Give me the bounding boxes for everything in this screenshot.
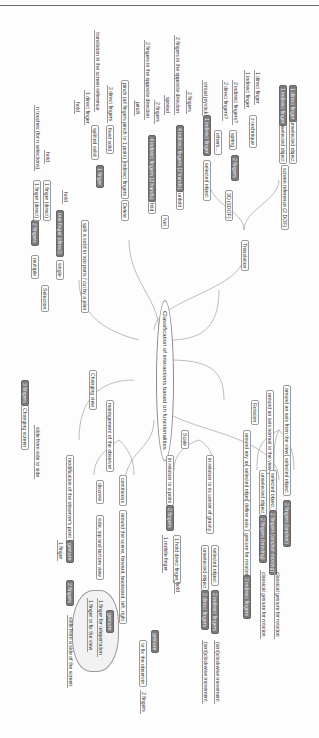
fold-leaf: pinch (134, 100, 141, 116)
pinch-node: pinch (all fingers pinch to 1 point) (121, 80, 129, 162)
changing-screen-node: Changing screen (21, 405, 29, 450)
side-top-bottom-node: side, top and bottom view (96, 515, 104, 580)
one-finger-direct-node: one finger (direct) (56, 210, 64, 257)
management-node: management of the observer (106, 400, 114, 472)
one-finger-direct-node: 1 finger (direct) (33, 180, 41, 221)
spring-leaf: 2 indirect fingers? (232, 80, 239, 125)
spring-leaf: 2 direct fingers? (222, 80, 229, 121)
selected-object-node: selected object (269, 470, 277, 511)
unfold-node: unfold (176, 190, 184, 210)
mindmap-canvas: Classification of interactions based on … (0, 0, 319, 738)
net-node: Net (161, 215, 169, 229)
fixed-leaf: 2 direct fingers (107, 85, 114, 123)
slide-side-leaf: slide from a side of the screen (67, 615, 74, 688)
slide-leaf: slide from side to side (34, 425, 41, 479)
3d-node: 3D (3DOF) (225, 190, 233, 221)
z-leaf: 1 indirect finger (244, 70, 251, 109)
z-technique-node: z-technique (249, 115, 257, 148)
selected-object-node: selected object (203, 160, 211, 201)
define-axis-node: define axis (243, 500, 251, 531)
axis-normal-node: around an axis normal to the view (266, 390, 274, 474)
classical-gesture-leaf: classical gesture for rotation (274, 570, 281, 639)
splitted-leaf: translation in the screen reference (94, 30, 101, 112)
movement-leaf: (anti)clockwise movement (202, 640, 209, 704)
root-node: Classification of interactions based on … (156, 300, 174, 461)
changing-view-node: Changing view (89, 370, 97, 410)
two-fingers-node: 2 fingers (31, 220, 39, 246)
three-fingers-node: 3 fingers (21, 380, 29, 406)
continuous-node: continuous (119, 475, 127, 506)
fold-leaf: 2 fingers in the opposite direction (144, 40, 151, 120)
mobile-finger-leaf: 1 mobile finger (162, 535, 169, 573)
splitted-leaf: 1 direct finger (84, 90, 91, 125)
anchor-fingers-node: 2 fingers (anchor) (283, 500, 291, 547)
others-node: others... (214, 130, 222, 155)
two-fingers-leaf: 2 fingers (140, 690, 147, 714)
unselected-object-node: unselected object (289, 118, 297, 164)
delete-node: Delete (121, 200, 129, 221)
scale-node: Scale (181, 430, 189, 449)
hold-leaf: hold (62, 190, 69, 204)
hold-direct-finger-node: 1 hold direct finger (173, 535, 181, 584)
one-finger-direct-node: 1 finger (direct) (43, 180, 51, 221)
four-fingers-node: 4 indirect fingers (2 hands) (176, 125, 184, 192)
screen-reference-node: screen reference (2 DOF) (281, 165, 289, 230)
point-node: in relation to a point (166, 455, 174, 506)
indirect-fingers-node: 2 indirect fingers (211, 590, 219, 634)
z-leaf: 1 direct finger (254, 70, 261, 105)
unfold-leaf: 2 fingers in the opposite direction (174, 35, 181, 115)
selected-object-node: selected object (211, 545, 219, 586)
n-touches-leaf: n touches (for n selections) (34, 105, 41, 171)
fix-observer-node: to fix the observer (139, 640, 147, 687)
one-finger-node: 1 finger (96, 165, 104, 188)
indirect-finger-node: 1 indirect finger (279, 85, 287, 126)
hold-leaf: hold (174, 580, 181, 594)
unfold-leaf: spread (164, 95, 171, 115)
discrete-node: discrete (96, 480, 104, 504)
classical-gesture-leaf: classical gesture for rotation (260, 570, 267, 639)
gesture-rotation-node: gesture for rotation (243, 530, 251, 580)
split-node: split a solid in two parts / cut by a pl… (81, 220, 89, 313)
indirect-fingers-node: 2 indirect fingers (243, 575, 251, 619)
two-fingers-node: 2 fingers (66, 580, 74, 606)
translation-node: Translation (241, 240, 249, 271)
indirect-finger-node: 1 indirect finger (203, 115, 211, 156)
spring-node: spring (229, 130, 237, 150)
teleportation-leaf: 1 finger for teleportation (97, 598, 104, 657)
two-fingers-node: 2 fingers (231, 155, 239, 181)
document-page: Classification of interactions based on … (0, 0, 319, 738)
single-node: single (56, 260, 64, 280)
fix-view-leaf: 1 finger to fix the view (87, 598, 94, 652)
direct-finger-node: 1 direct finger (289, 85, 297, 122)
multiple-node: multiple (31, 255, 39, 279)
splitted-leaf: hold (74, 100, 81, 114)
direct-fingers-node: 2 direct fingers (201, 590, 209, 630)
fold-node: fold (148, 200, 156, 214)
unselected-object-node: unselected object (201, 545, 209, 591)
moving-fingers-node: 2 fingers (moving) (259, 515, 267, 563)
center-of-gravity-node: in relation to its center of gravity (206, 455, 214, 534)
gesture-node: gesture (151, 630, 159, 653)
continuous-leaf: around the scene, forward, backward, lef… (119, 510, 127, 624)
two-fingers-node: 2 fingers (166, 505, 174, 531)
one-finger-leaf: 1 finger (57, 540, 64, 561)
virtual-joystick-node: virtual joystick (202, 80, 209, 116)
rotation-node: Rotation (251, 400, 259, 425)
fixed-solid-node: fixed solid (106, 125, 114, 154)
axis-view-node: around an axis from the view (283, 385, 291, 457)
hold-leaf: hold (44, 150, 51, 164)
selection-node: Selection (41, 285, 49, 312)
gesture-node: gesture (106, 610, 114, 633)
four-fingers-node: 4 indirect fingers (2 hands) (148, 135, 156, 202)
unselected-object-node: unselected object (259, 470, 267, 516)
anchor-moving-node: 2 fingers (anchor-moving) (269, 510, 277, 575)
unfold-leaf: 2 fingers (186, 90, 193, 114)
selected-object-node: selected object (283, 455, 291, 496)
fold-leaf: 2 fingers (154, 100, 161, 124)
movement-leaf: (anti)clockwise movement (214, 640, 221, 704)
splitted-solid-node: splitted solid (91, 125, 99, 160)
gesture-node: gesture (66, 540, 74, 563)
